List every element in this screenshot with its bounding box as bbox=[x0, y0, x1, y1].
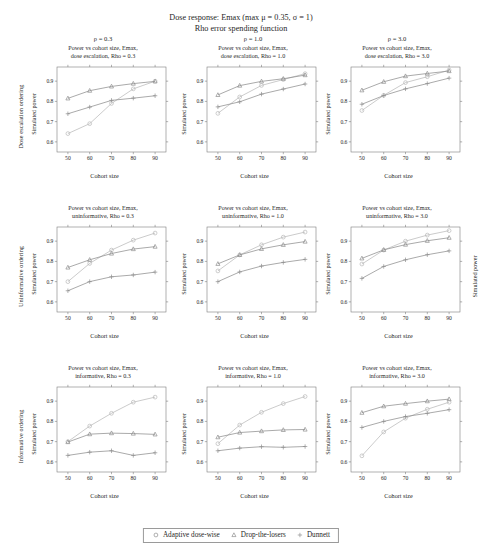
plot-canvas: 50607080900.60.70.80.9 bbox=[333, 382, 464, 486]
circle-marker bbox=[152, 531, 160, 539]
right-axis-label-text: Simulated power bbox=[471, 255, 478, 297]
figure-title: Dose response: Emax (max μ = 0.35, σ = 1… bbox=[0, 12, 482, 34]
svg-text:0.7: 0.7 bbox=[46, 439, 53, 445]
right-axis-label: Simulated power bbox=[468, 196, 480, 356]
plot-area: Simulated power50607080900.60.70.80.9Coh… bbox=[28, 222, 178, 340]
series-line bbox=[218, 397, 305, 444]
svg-text:0.6: 0.6 bbox=[46, 299, 53, 305]
legend-item: Adaptive dose-wise bbox=[152, 531, 220, 539]
series-line bbox=[68, 233, 155, 282]
panel-title-line2: dose escalation, Rho = 1.0 bbox=[178, 53, 328, 61]
svg-text:90: 90 bbox=[152, 475, 158, 481]
y-axis-label: Simulated power bbox=[322, 62, 333, 166]
plus-marker bbox=[238, 446, 242, 450]
row-label-text: Uninformative ordering bbox=[18, 245, 25, 306]
x-axis-label: Cohort size bbox=[39, 332, 170, 339]
svg-text:0.6: 0.6 bbox=[46, 459, 53, 465]
panel-title-line1: Power vs cohort size, Emax, bbox=[178, 45, 328, 53]
plot-canvas: 50607080900.60.70.80.9 bbox=[189, 382, 320, 486]
svg-text:0.9: 0.9 bbox=[196, 238, 203, 244]
svg-text:0.7: 0.7 bbox=[46, 279, 53, 285]
panel-r1-c3: ρ = 3.0Power vs cohort size, Emax,dose e… bbox=[322, 36, 472, 196]
plus-marker bbox=[303, 444, 307, 448]
plot-canvas: 50607080900.60.70.80.9 bbox=[189, 222, 320, 326]
svg-text:0.7: 0.7 bbox=[196, 119, 203, 125]
svg-text:60: 60 bbox=[237, 475, 243, 481]
plus-marker bbox=[131, 273, 135, 277]
rho-heading: ρ = 1.0 bbox=[178, 35, 328, 42]
y-axis-label-text: Simulated power bbox=[181, 413, 187, 454]
panel-row: Informative orderingPower vs cohort size… bbox=[0, 356, 482, 516]
panel-r3-c3: Power vs cohort size, Emax,informative, … bbox=[322, 356, 472, 516]
x-axis-label: Cohort size bbox=[189, 332, 320, 339]
plot-canvas: 50607080900.60.70.80.9 bbox=[39, 222, 170, 326]
plot-area: Simulated power50607080900.60.70.80.9Coh… bbox=[322, 382, 472, 500]
legend-label: Adaptive dose-wise bbox=[163, 531, 220, 539]
circle-marker bbox=[66, 132, 70, 136]
plus-marker bbox=[109, 449, 113, 453]
svg-text:70: 70 bbox=[109, 315, 115, 321]
svg-text:80: 80 bbox=[425, 315, 431, 321]
plus-marker bbox=[259, 264, 263, 268]
svg-text:80: 80 bbox=[131, 315, 137, 321]
svg-text:60: 60 bbox=[381, 155, 387, 161]
figure-title-line2: Rho error spending function bbox=[0, 23, 482, 34]
panel-title: Power vs cohort size, Emax,dose escalati… bbox=[28, 45, 178, 60]
x-axis-label: Cohort size bbox=[189, 172, 320, 179]
svg-text:50: 50 bbox=[215, 475, 221, 481]
svg-text:90: 90 bbox=[446, 315, 452, 321]
plus-marker bbox=[66, 453, 70, 457]
svg-text:70: 70 bbox=[403, 315, 409, 321]
svg-text:50: 50 bbox=[359, 475, 365, 481]
plus-marker bbox=[403, 87, 407, 91]
svg-text:0.9: 0.9 bbox=[340, 398, 347, 404]
svg-text:0.6: 0.6 bbox=[340, 459, 347, 465]
triangle-marker bbox=[303, 239, 307, 243]
svg-text:0.7: 0.7 bbox=[196, 279, 203, 285]
panel-title-line2: uninformative, Rho = 1.0 bbox=[178, 213, 328, 221]
svg-text:0.7: 0.7 bbox=[46, 119, 53, 125]
svg-text:0.8: 0.8 bbox=[340, 418, 347, 424]
plus-marker bbox=[109, 275, 113, 279]
triangle-marker bbox=[447, 236, 451, 240]
svg-text:0.8: 0.8 bbox=[340, 98, 347, 104]
plus-marker bbox=[281, 260, 285, 264]
plus-marker bbox=[382, 419, 386, 423]
y-axis-label-text: Simulated power bbox=[31, 93, 37, 134]
svg-text:80: 80 bbox=[281, 315, 287, 321]
svg-text:60: 60 bbox=[237, 155, 243, 161]
svg-text:80: 80 bbox=[425, 155, 431, 161]
x-axis-label: Cohort size bbox=[39, 172, 170, 179]
panel-r3-c1: Power vs cohort size, Emax,informative, … bbox=[28, 356, 178, 516]
svg-text:90: 90 bbox=[446, 475, 452, 481]
y-axis-label-text: Simulated power bbox=[325, 413, 331, 454]
y-axis-label: Simulated power bbox=[178, 222, 189, 326]
plus-marker bbox=[153, 270, 157, 274]
svg-text:0.7: 0.7 bbox=[340, 279, 347, 285]
svg-text:90: 90 bbox=[302, 155, 308, 161]
x-axis-label: Cohort size bbox=[39, 492, 170, 499]
panel-r3-c2: Power vs cohort size, Emax,informative, … bbox=[178, 356, 328, 516]
svg-text:0.8: 0.8 bbox=[340, 258, 347, 264]
svg-text:50: 50 bbox=[215, 155, 221, 161]
svg-text:50: 50 bbox=[359, 155, 365, 161]
svg-text:50: 50 bbox=[359, 315, 365, 321]
svg-text:0.7: 0.7 bbox=[340, 119, 347, 125]
plus-marker bbox=[296, 531, 304, 539]
svg-text:0.9: 0.9 bbox=[340, 238, 347, 244]
panel-title-line2: informative, Rho = 0.3 bbox=[28, 373, 178, 381]
svg-text:60: 60 bbox=[237, 315, 243, 321]
y-axis-label: Simulated power bbox=[28, 62, 39, 166]
svg-text:0.8: 0.8 bbox=[46, 258, 53, 264]
svg-text:0.9: 0.9 bbox=[340, 78, 347, 84]
svg-text:0.9: 0.9 bbox=[46, 78, 53, 84]
series-line bbox=[68, 81, 155, 133]
y-axis-label: Simulated power bbox=[322, 222, 333, 326]
panel-title: Power vs cohort size, Emax,uninformative… bbox=[178, 205, 328, 220]
y-axis-label-text: Simulated power bbox=[325, 93, 331, 134]
plot-area: Simulated power50607080900.60.70.80.9Coh… bbox=[178, 222, 328, 340]
plot-canvas: 50607080900.60.70.80.9 bbox=[333, 62, 464, 166]
y-axis-label-text: Simulated power bbox=[31, 413, 37, 454]
plus-marker bbox=[66, 289, 70, 293]
plus-marker bbox=[88, 279, 92, 283]
